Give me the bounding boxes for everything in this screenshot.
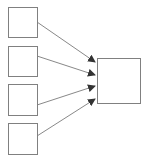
source-box-2 bbox=[9, 47, 38, 77]
source-box-4 bbox=[9, 124, 38, 155]
arrow-box-2-to-target bbox=[37, 56, 95, 75]
arrow-box-4-to-target bbox=[37, 99, 95, 136]
source-box-3 bbox=[9, 85, 38, 116]
target-box bbox=[98, 59, 141, 104]
boxes-group bbox=[9, 8, 141, 155]
arrow-box-1-to-target bbox=[37, 22, 95, 62]
arrow-box-3-to-target bbox=[37, 86, 95, 105]
arrows-group bbox=[37, 22, 95, 136]
source-box-1 bbox=[9, 8, 38, 38]
diagram-canvas bbox=[0, 0, 150, 162]
